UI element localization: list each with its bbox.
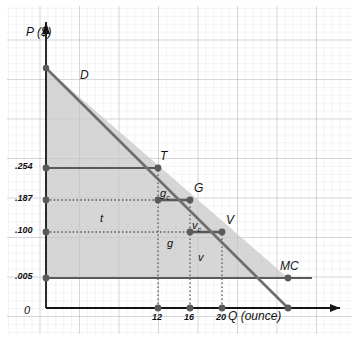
point-label-v: V (226, 214, 234, 226)
x-axis-label-q: Q (ounce) (228, 310, 281, 322)
y-tick-100: .100 (15, 226, 33, 235)
x-tick-16: 16 (184, 313, 194, 322)
point-label-g: G (194, 182, 203, 194)
x-tick-12: 12 (152, 313, 162, 322)
region-label-t: t (100, 213, 103, 224)
point-label-g-sub-c-sub: c (166, 194, 170, 201)
point-label-v-sub-c: vc (192, 220, 201, 233)
point-label-g-sub-c: gc (160, 188, 170, 201)
y-axis-label-p: P ($) (26, 26, 52, 38)
region-label-v: v (198, 252, 204, 263)
economics-chart-figure: P ($) Q (ounce) 0 .254 .187 .100 .005 12… (0, 0, 356, 339)
region-label-g: g (167, 238, 173, 249)
x-tick-20: 20 (216, 313, 226, 322)
point-label-t: T (160, 150, 167, 162)
curve-label-demand: D (80, 69, 89, 81)
y-tick-187: .187 (15, 194, 33, 203)
origin-label: 0 (24, 305, 30, 316)
y-tick-005: .005 (15, 272, 33, 281)
y-tick-254: .254 (15, 162, 33, 171)
point-label-v-sub-c-sub: c (198, 226, 202, 233)
curve-label-mc: MC (280, 260, 299, 272)
chart-canvas (0, 0, 356, 339)
